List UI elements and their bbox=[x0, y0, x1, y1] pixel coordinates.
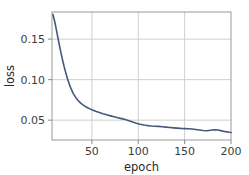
x-tick-label: 50 bbox=[85, 145, 99, 158]
x-tick-label: 150 bbox=[174, 145, 195, 158]
y-tick-label: 0.10 bbox=[21, 74, 46, 87]
x-tick-label: 100 bbox=[128, 145, 149, 158]
loss-curve-chart: 501001502000.050.100.15 epoch loss bbox=[0, 0, 249, 175]
y-axis-title: loss bbox=[3, 65, 17, 87]
y-tick-label: 0.05 bbox=[21, 114, 46, 127]
chart-figure: 501001502000.050.100.15 epoch loss bbox=[0, 0, 249, 175]
x-tick-label: 200 bbox=[221, 145, 242, 158]
y-tick-label: 0.15 bbox=[21, 33, 46, 46]
figure-background bbox=[0, 0, 249, 175]
x-axis-title: epoch bbox=[124, 160, 159, 174]
